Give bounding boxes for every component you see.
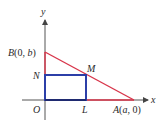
rectangle-ONML	[45, 75, 86, 100]
point-A-close: , 0)	[127, 104, 140, 116]
point-N-label: N	[32, 70, 41, 81]
point-B-open: (0,	[14, 47, 27, 59]
y-axis-label: y	[40, 6, 46, 17]
point-B-close: )	[32, 47, 35, 59]
triangle-rectangle-diagram: y x B(0, b) N M O L A(a, 0)	[0, 0, 164, 128]
point-M-label: M	[86, 63, 96, 74]
point-B-label: B(0, b)	[8, 47, 36, 59]
point-L-label: L	[81, 104, 88, 115]
point-A-label: A(a, 0)	[112, 104, 141, 116]
x-axis-label: x	[150, 94, 156, 105]
origin-label: O	[33, 104, 40, 115]
